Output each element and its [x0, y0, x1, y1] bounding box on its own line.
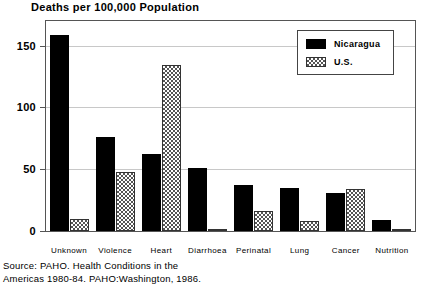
bar-unknown-us: [70, 219, 89, 231]
y-axis: 050100150: [0, 20, 45, 232]
bar-diarrhoea-nicaragua: [188, 168, 207, 231]
bar-lung-nicaragua: [280, 188, 299, 231]
legend-swatch-us: [306, 57, 326, 67]
bar-heart-us: [162, 65, 181, 231]
bar-nutrition-nicaragua: [372, 220, 391, 231]
legend-item-nicaragua: Nicaragua: [306, 38, 380, 49]
bar-cancer-us: [346, 189, 365, 231]
x-axis-labels: UnknownViolenceHeartDiarrhoeaPerinatalLu…: [46, 246, 415, 260]
bar-violence-nicaragua: [96, 137, 115, 231]
bar-unknown-nicaragua: [50, 35, 69, 231]
source-line-1: Source: PAHO. Health Conditions in the: [3, 259, 201, 272]
legend-label-nicaragua: Nicaragua: [334, 39, 380, 49]
x-tick-label: Nutrition: [375, 246, 408, 255]
y-tick-label: 100: [17, 101, 36, 113]
legend-item-us: U.S.: [306, 56, 353, 67]
y-tick-label: 0: [30, 225, 36, 237]
bar-perinatal-us: [254, 211, 273, 231]
chart-legend: Nicaragua U.S.: [297, 30, 394, 75]
bar-heart-nicaragua: [142, 154, 161, 231]
y-tick-label: 150: [17, 40, 36, 52]
x-tick-label: Diarrhoea: [188, 246, 227, 255]
x-tick-label: Violence: [98, 246, 132, 255]
bar-violence-us: [116, 172, 135, 231]
source-note: Source: PAHO. Health Conditions in the A…: [3, 259, 201, 285]
x-tick-label: Unknown: [51, 246, 87, 255]
x-tick-label: Cancer: [332, 246, 360, 255]
y-tick-label: 50: [23, 163, 36, 175]
x-tick-label: Perinatal: [236, 246, 271, 255]
bar-lung-us: [300, 221, 319, 231]
chart-page: Deaths per 100,000 Population 050100150 …: [0, 0, 425, 289]
bar-nutrition-us: [392, 229, 411, 231]
bar-cancer-nicaragua: [326, 193, 345, 231]
bar-perinatal-nicaragua: [234, 185, 253, 231]
chart-title: Deaths per 100,000 Population: [31, 1, 199, 13]
x-tick-label: Heart: [151, 246, 173, 255]
source-line-2: Americas 1980-84. PAHO:Washington, 1986.: [3, 272, 201, 285]
legend-swatch-nicaragua: [306, 39, 326, 49]
x-tick-label: Lung: [290, 246, 309, 255]
bar-diarrhoea-us: [208, 229, 227, 231]
legend-label-us: U.S.: [334, 57, 353, 67]
